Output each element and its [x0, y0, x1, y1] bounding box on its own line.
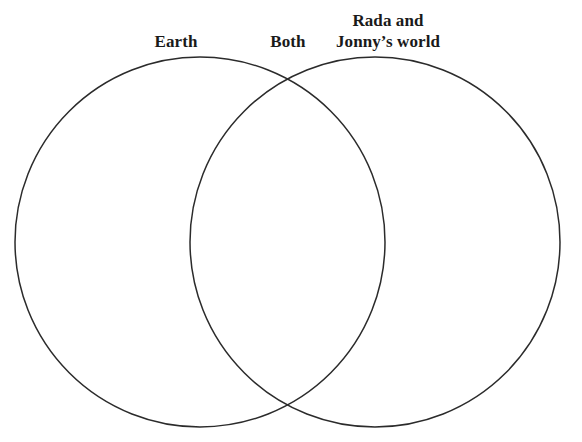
venn-diagram-page: Earth Both Rada and Jonny’s world	[0, 0, 582, 442]
venn-diagram-canvas	[0, 0, 582, 442]
diagram-background	[0, 0, 582, 442]
right-circle-label-line-2: Jonny’s world	[313, 31, 463, 52]
left-circle-label: Earth	[116, 31, 236, 52]
right-circle-label-line-1: Rada and	[313, 10, 463, 31]
right-circle-label: Rada and Jonny’s world	[313, 10, 463, 52]
